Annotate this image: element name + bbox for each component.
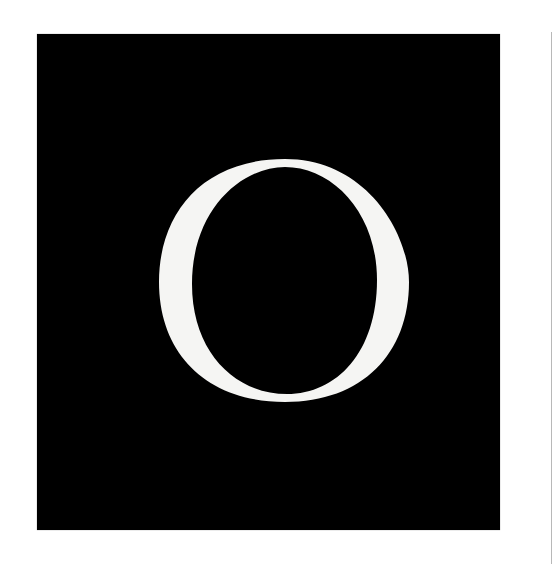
black-letter-panel: O [37, 34, 500, 530]
vertical-divider [551, 32, 552, 564]
letter-o-glyph [37, 34, 500, 530]
